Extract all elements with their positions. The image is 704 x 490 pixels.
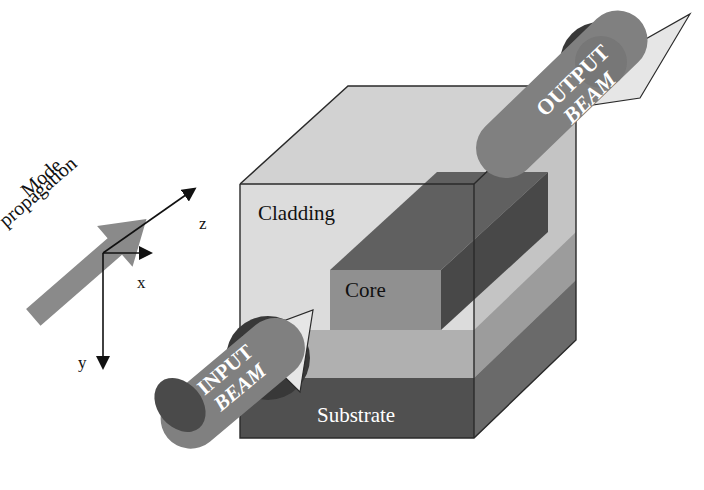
core-label: Core [345,278,386,302]
waveguide-diagram: OUTPUT BEAM INPUT BEAM Cladding Core [0,0,704,490]
axis-y-label: y [78,353,87,372]
axis-z-line [103,192,190,253]
figure-canvas: OUTPUT BEAM INPUT BEAM Cladding Core [0,0,704,490]
coordinate-axes [103,192,190,362]
cladding-label: Cladding [258,201,335,225]
mode-arrow-shape [16,199,165,338]
axis-x-label: x [137,273,146,292]
mode-propagation-arrow [16,199,165,338]
substrate-label: Substrate [317,403,395,427]
axis-z-label: z [199,214,207,233]
